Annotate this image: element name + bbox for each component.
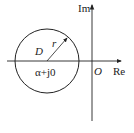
imag-axis-label: Im	[78, 2, 91, 14]
origin-label: O	[94, 65, 102, 77]
center-label: α+j0	[35, 66, 56, 78]
region-label: D	[34, 45, 43, 57]
real-axis-label: Re	[113, 65, 125, 77]
radius-arrow	[47, 38, 67, 61]
complex-plane-diagram: Im Re O D r α+j0	[0, 0, 134, 133]
radius-label: r	[52, 37, 57, 49]
